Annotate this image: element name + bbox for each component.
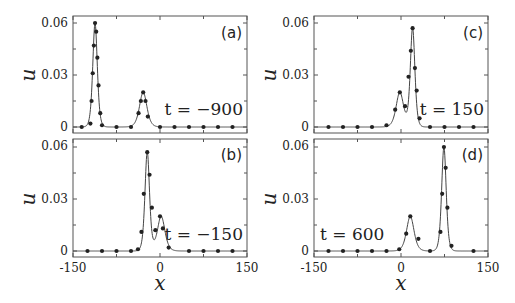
panel-tag-d: (d) bbox=[462, 146, 483, 164]
ytick-0.06-d: 0.06 bbox=[282, 139, 309, 153]
data-point bbox=[444, 166, 448, 170]
ytick-0-b: 0 bbox=[60, 244, 68, 258]
data-point bbox=[445, 206, 449, 210]
data-point bbox=[230, 249, 234, 253]
ytick-0.06-c: 0.06 bbox=[282, 16, 309, 30]
data-point bbox=[341, 125, 345, 129]
data-point bbox=[187, 125, 191, 129]
data-point bbox=[457, 125, 461, 129]
data-point bbox=[167, 245, 171, 249]
ytick-0-a: 0 bbox=[60, 120, 68, 134]
data-point bbox=[88, 121, 92, 125]
data-point bbox=[158, 214, 162, 218]
y-axis-label-b: u bbox=[16, 193, 40, 206]
data-point bbox=[98, 111, 102, 115]
data-point bbox=[94, 30, 98, 34]
data-point bbox=[136, 111, 140, 115]
data-point bbox=[398, 90, 402, 94]
y-axis-label-a: u bbox=[16, 69, 40, 82]
data-point bbox=[93, 21, 97, 25]
data-point bbox=[129, 249, 133, 253]
data-point bbox=[96, 83, 100, 87]
data-point bbox=[143, 99, 147, 103]
data-point bbox=[216, 125, 220, 129]
data-point bbox=[100, 123, 104, 127]
ytick-0.03-d: 0.03 bbox=[282, 192, 309, 206]
data-point bbox=[139, 230, 143, 234]
time-label-c: t = 150 bbox=[420, 99, 484, 119]
data-point bbox=[142, 192, 146, 196]
ytick-0-c: 0 bbox=[301, 120, 309, 134]
data-point bbox=[80, 125, 84, 129]
data-point bbox=[146, 115, 150, 119]
data-point bbox=[341, 249, 345, 253]
data-point bbox=[413, 66, 417, 70]
data-point bbox=[172, 125, 176, 129]
data-point bbox=[85, 249, 89, 253]
ytick-0.06-a: 0.06 bbox=[41, 16, 68, 30]
data-point bbox=[326, 125, 330, 129]
x-axis-label-b: x bbox=[154, 271, 165, 295]
data-point bbox=[438, 230, 442, 234]
data-point bbox=[417, 116, 421, 120]
data-point bbox=[91, 71, 95, 75]
x-axis-label-d: x bbox=[395, 271, 406, 295]
ytick-0.06-b: 0.06 bbox=[41, 139, 68, 153]
xtick-neg150-b: -150 bbox=[60, 261, 87, 275]
time-label-a: t = −900 bbox=[164, 99, 243, 119]
data-point bbox=[471, 125, 475, 129]
panel-tag-c: (c) bbox=[463, 24, 483, 42]
xtick-150-d: 150 bbox=[477, 261, 500, 275]
ytick-0.03-c: 0.03 bbox=[282, 68, 309, 82]
xtick-150-b: 150 bbox=[236, 261, 259, 275]
data-point bbox=[158, 125, 162, 129]
panel-tag-b: (b) bbox=[221, 146, 242, 164]
data-point bbox=[428, 249, 432, 253]
data-point bbox=[147, 173, 151, 177]
data-point bbox=[136, 247, 140, 251]
data-point bbox=[428, 125, 432, 129]
data-point bbox=[355, 125, 359, 129]
data-point bbox=[355, 249, 359, 253]
data-point bbox=[187, 249, 191, 253]
ytick-0-d: 0 bbox=[301, 244, 309, 258]
panel-d: 0.06 0.03 0 u (d) t = 600 -150 0 150 x bbox=[257, 139, 499, 295]
data-point bbox=[139, 99, 143, 103]
data-point bbox=[114, 125, 118, 129]
data-point bbox=[100, 249, 104, 253]
data-point bbox=[89, 99, 93, 103]
data-point bbox=[153, 228, 157, 232]
data-point bbox=[370, 249, 374, 253]
data-point bbox=[411, 26, 415, 30]
data-point bbox=[150, 206, 154, 210]
time-label-d: t = 600 bbox=[320, 224, 384, 244]
data-point bbox=[95, 56, 99, 60]
data-point bbox=[442, 125, 446, 129]
data-point bbox=[201, 125, 205, 129]
data-point bbox=[145, 150, 149, 154]
data-point bbox=[409, 49, 413, 53]
y-axis-label-d: u bbox=[257, 193, 281, 206]
data-point bbox=[416, 237, 420, 241]
xtick-neg150-d: -150 bbox=[301, 261, 328, 275]
data-point bbox=[397, 247, 401, 251]
data-point bbox=[161, 226, 165, 230]
data-point bbox=[384, 249, 388, 253]
data-point bbox=[326, 249, 330, 253]
data-point bbox=[370, 125, 374, 129]
panel-a: 0.06 0.03 0 u (a) t = −900 bbox=[16, 16, 243, 134]
y-axis-label-c: u bbox=[257, 69, 281, 82]
data-point bbox=[449, 244, 453, 248]
data-point bbox=[230, 125, 234, 129]
time-label-b: t = −150 bbox=[164, 224, 243, 244]
ytick-0.03-b: 0.03 bbox=[41, 192, 68, 206]
data-point bbox=[216, 249, 220, 253]
ytick-0.03-a: 0.03 bbox=[41, 68, 68, 82]
panel-tag-a: (a) bbox=[221, 24, 242, 42]
panel-c: 0.06 0.03 0 u (c) t = 150 bbox=[257, 16, 484, 134]
data-point bbox=[471, 249, 475, 253]
data-point bbox=[201, 249, 205, 253]
data-point bbox=[406, 75, 410, 79]
panel-b: 0.06 0.03 0 u (b) t = −150 -150 0 150 x bbox=[16, 139, 258, 295]
data-point bbox=[404, 232, 408, 236]
